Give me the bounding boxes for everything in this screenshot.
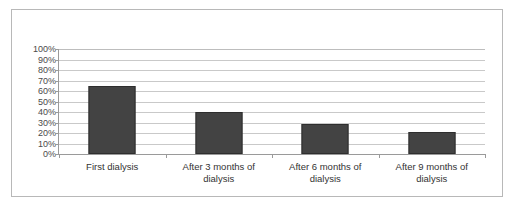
y-axis-tick-label: 80% xyxy=(14,66,56,75)
y-axis-tick-mark xyxy=(55,133,59,134)
x-axis-category-label: First dialysis xyxy=(59,161,166,185)
y-axis-tick-mark xyxy=(55,91,59,92)
x-axis-category-labels: First dialysisAfter 3 months of dialysis… xyxy=(59,161,485,185)
y-axis-tick-labels: 100%90%80%70%60%50%40%30%20%10%0% xyxy=(14,49,56,154)
bar[interactable] xyxy=(408,132,455,154)
category-tick-mark xyxy=(379,154,380,158)
bar[interactable] xyxy=(195,112,242,154)
y-axis-tick-mark xyxy=(55,102,59,103)
y-axis-tick-label: 50% xyxy=(14,97,56,106)
bar[interactable] xyxy=(89,86,136,154)
y-axis-tick-label: 90% xyxy=(14,55,56,64)
bar[interactable] xyxy=(302,124,349,154)
category-tick-mark xyxy=(59,154,60,158)
plot-area xyxy=(59,49,485,154)
y-axis-tick-label: 10% xyxy=(14,139,56,148)
y-axis-tick-label: 40% xyxy=(14,108,56,117)
x-axis-category-label: After 6 months of dialysis xyxy=(272,161,379,185)
y-axis-tick-mark xyxy=(55,123,59,124)
y-axis-tick-mark xyxy=(55,60,59,61)
y-axis-tick-label: 100% xyxy=(14,45,56,54)
y-axis-tick-label: 20% xyxy=(14,129,56,138)
category-tick-mark xyxy=(485,154,486,158)
category-tick-mark xyxy=(166,154,167,158)
y-axis-tick-mark xyxy=(55,81,59,82)
y-axis-tick-mark xyxy=(55,112,59,113)
y-axis-tick-mark xyxy=(55,49,59,50)
bar-slot xyxy=(379,49,486,154)
y-axis-tick-mark xyxy=(55,70,59,71)
bar-slot xyxy=(166,49,273,154)
y-axis-tick-label: 70% xyxy=(14,76,56,85)
bar-slot xyxy=(59,49,166,154)
bar-chart: 100%90%80%70%60%50%40%30%20%10%0% First … xyxy=(12,10,502,196)
y-axis-tick-mark xyxy=(55,154,59,155)
category-tick-marks xyxy=(59,154,485,158)
bar-slot xyxy=(272,49,379,154)
y-axis-tick-label: 30% xyxy=(14,118,56,127)
bar-series xyxy=(59,49,485,154)
y-axis-tick-mark xyxy=(55,144,59,145)
y-axis-tick-label: 0% xyxy=(14,150,56,159)
y-axis-tick-label: 60% xyxy=(14,87,56,96)
x-axis-category-label: After 3 months of dialysis xyxy=(166,161,273,185)
category-tick-mark xyxy=(272,154,273,158)
x-axis-category-label: After 9 months of dialysis xyxy=(379,161,486,185)
chart-figure-frame: 100%90%80%70%60%50%40%30%20%10%0% First … xyxy=(11,9,503,197)
